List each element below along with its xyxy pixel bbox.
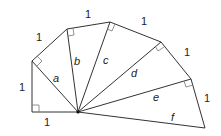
origin-point <box>76 110 79 113</box>
edge-label: 1 <box>36 31 42 43</box>
edge-label: 1 <box>184 46 190 58</box>
hypotenuse-label: a <box>53 72 59 84</box>
spiral-diagram: 1 1 1 1 1 1 1 a b c d e f <box>0 0 221 136</box>
edge-label: 1 <box>85 8 91 20</box>
edge-label: 1 <box>44 116 50 128</box>
hypotenuse-e <box>78 79 191 112</box>
hypotenuse-b <box>67 29 78 112</box>
edge-label: 1 <box>141 15 147 27</box>
right-angle-marker <box>68 28 74 36</box>
hypotenuse-a <box>32 61 78 112</box>
right-angle-marker <box>37 56 42 66</box>
edge-label: 1 <box>19 81 25 93</box>
right-angle-marker <box>32 105 39 112</box>
right-angle-marker <box>155 46 164 51</box>
hypotenuse-label: b <box>74 55 80 67</box>
hypotenuse-label: d <box>131 67 138 79</box>
hypotenuse-label: f <box>171 111 175 123</box>
hypotenuse-label: e <box>153 91 159 103</box>
hypotenuse-label: c <box>103 54 109 66</box>
edge-label: 1 <box>204 92 210 104</box>
